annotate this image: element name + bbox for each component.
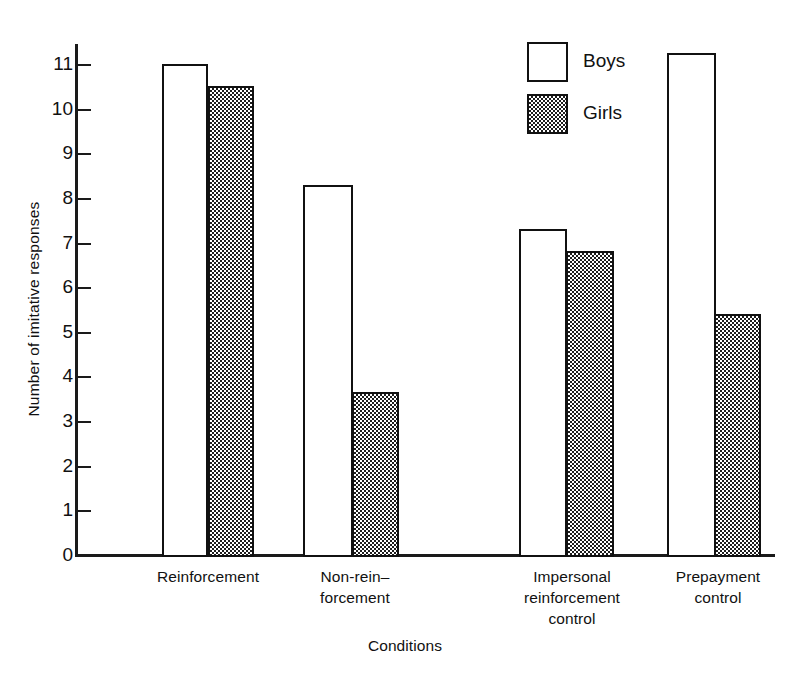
y-tick-label: 3 (45, 411, 73, 430)
y-axis-line (75, 44, 78, 557)
x-category-label-2: Non-rein–forcement (255, 566, 455, 608)
bar-girls-group-4 (714, 314, 761, 557)
x-category-label-line: Non-rein– (255, 566, 455, 587)
y-tick-label: 8 (45, 188, 73, 207)
y-tick-mark (78, 555, 91, 557)
y-tick-mark (78, 466, 91, 468)
bar-boys-group-4 (667, 53, 716, 557)
y-tick-mark (78, 421, 91, 423)
y-tick-mark (78, 198, 91, 200)
bar-girls-group-1 (208, 86, 254, 557)
bar-boys-group-3 (519, 229, 567, 557)
y-tick-label: 11 (45, 54, 73, 73)
x-category-label-line: forcement (255, 587, 455, 608)
y-tick-mark (78, 64, 91, 66)
open-square-swatch-icon (527, 42, 568, 82)
y-tick-label: 6 (45, 277, 73, 296)
x-category-label-line: control (618, 587, 810, 608)
y-tick-mark (78, 332, 91, 334)
bar-boys-group-2 (303, 185, 353, 557)
y-tick-mark (78, 376, 91, 378)
bar-boys-group-1 (162, 64, 208, 557)
bar-girls-group-3 (566, 251, 614, 557)
y-tick-mark (78, 109, 91, 111)
x-category-label-line: Prepayment (618, 566, 810, 587)
y-tick-label: 1 (45, 500, 73, 519)
y-tick-mark (78, 510, 91, 512)
y-tick-label: 0 (45, 545, 73, 564)
y-tick-label: 5 (45, 322, 73, 341)
y-tick-label: 4 (45, 366, 73, 385)
y-tick-mark (78, 287, 91, 289)
bar-girls-group-2 (352, 392, 399, 557)
y-tick-label: 10 (45, 99, 73, 118)
bar-chart: Number of imitative responses 0123456789… (0, 0, 810, 677)
y-tick-label: 7 (45, 233, 73, 252)
legend-label-boys: Boys (583, 50, 625, 72)
y-tick-mark (78, 243, 91, 245)
y-axis-title: Number of imitative responses (25, 179, 43, 439)
legend-label-girls: Girls (583, 102, 622, 124)
y-tick-label: 9 (45, 143, 73, 162)
y-tick-mark (78, 153, 91, 155)
hatched-square-swatch-icon (527, 94, 568, 134)
x-category-label-4: Prepaymentcontrol (618, 566, 810, 608)
y-tick-label: 2 (45, 456, 73, 475)
x-category-label-line: control (472, 608, 672, 629)
x-axis-title: Conditions (0, 637, 810, 655)
